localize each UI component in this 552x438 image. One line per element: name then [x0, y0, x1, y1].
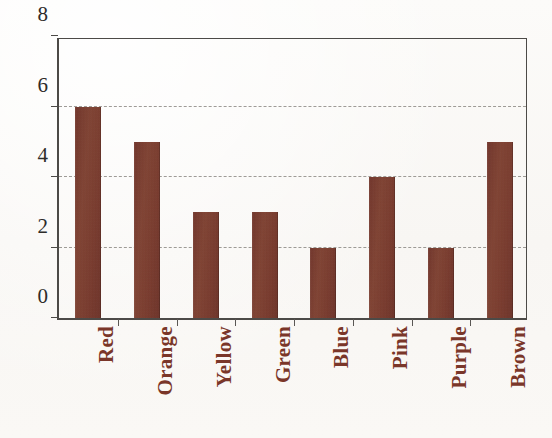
y-tick-label-6: 6	[38, 75, 49, 96]
y-tick-label-2: 2	[38, 216, 49, 237]
x-tick-mark-5	[412, 319, 413, 326]
category-label-orange[interactable]: Orange	[155, 326, 176, 395]
bar-chart: 02468 RedOrangeYellowGreenBluePinkPurple…	[0, 0, 552, 438]
x-tick-mark-4	[353, 319, 354, 326]
y-tick-mark-8	[51, 35, 58, 36]
y-tick-label-0: 0	[38, 286, 49, 307]
y-tick-mark-4	[51, 176, 58, 177]
plot-area: 02468	[57, 38, 527, 320]
category-label-yellow[interactable]: Yellow	[214, 326, 235, 387]
category-label-green[interactable]: Green	[273, 326, 294, 383]
x-tick-mark-0	[118, 319, 119, 326]
category-label-blue[interactable]: Blue	[331, 326, 352, 368]
y-tick-label-8: 8	[38, 4, 49, 25]
bar-purple[interactable]	[428, 248, 454, 319]
bar-series	[59, 39, 526, 318]
x-tick-mark-2	[235, 319, 236, 326]
category-label-purple[interactable]: Purple	[449, 326, 470, 388]
x-tick-mark-6	[470, 319, 471, 326]
category-label-red[interactable]: Red	[96, 326, 117, 363]
bar-red[interactable]	[75, 107, 101, 319]
bar-brown[interactable]	[487, 142, 513, 318]
y-tick-mark-0	[51, 317, 58, 318]
bar-pink[interactable]	[369, 177, 395, 318]
category-label-brown[interactable]: Brown	[508, 326, 529, 388]
x-tick-mark-3	[294, 319, 295, 326]
y-tick-mark-6	[51, 106, 58, 107]
category-label-pink[interactable]: Pink	[390, 326, 411, 369]
y-tick-mark-2	[51, 247, 58, 248]
y-tick-label-4: 4	[38, 145, 49, 166]
bar-blue[interactable]	[310, 248, 336, 319]
category-labels: RedOrangeYellowGreenBluePinkPurpleBrown	[57, 326, 527, 436]
bar-yellow[interactable]	[193, 212, 219, 318]
bar-orange[interactable]	[134, 142, 160, 318]
x-tick-mark-1	[177, 319, 178, 326]
bar-green[interactable]	[252, 212, 278, 318]
